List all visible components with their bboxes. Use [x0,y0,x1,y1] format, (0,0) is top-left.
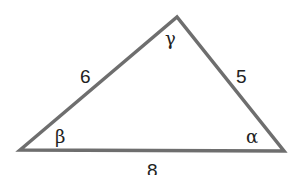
side-left-label: 6 [80,66,91,87]
angle-gamma-label: γ [165,28,176,49]
side-right-label: 5 [236,66,247,87]
side-bottom-label: 8 [147,160,158,175]
triangle-diagram: γ 6 5 β α 8 [0,0,297,175]
angle-alpha-label: α [246,126,258,147]
angle-beta-label: β [55,126,65,147]
